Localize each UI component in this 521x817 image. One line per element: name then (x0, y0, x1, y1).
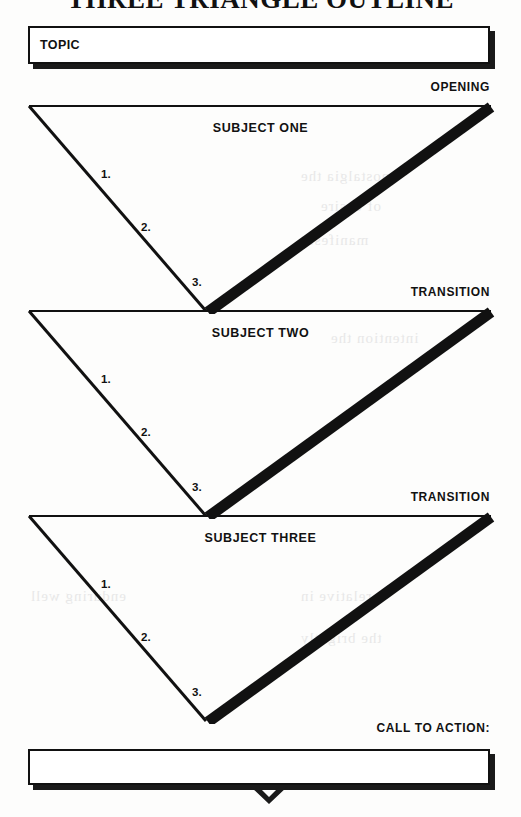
topic-box[interactable]: TOPIC (28, 26, 490, 64)
topic-box-label: TOPIC (40, 38, 80, 52)
page-title: THREE TRIANGLE OUTLINE (0, 0, 521, 15)
point-number-3: 3. (192, 481, 202, 493)
section-marker-call-to-action: CALL TO ACTION: (290, 721, 490, 735)
section-marker-transition-two: TRANSITION (300, 490, 490, 504)
point-number-2: 2. (141, 631, 151, 643)
point-number-1: 1. (101, 373, 111, 385)
triangle-section-three: SUBJECT THREE 1. 2. 3. (0, 512, 521, 724)
section-marker-transition-one: TRANSITION (300, 285, 490, 299)
point-number-1: 1. (101, 168, 111, 180)
point-number-3: 3. (192, 686, 202, 698)
subject-label-one: SUBJECT ONE (0, 121, 521, 135)
point-number-1: 1. (101, 578, 111, 590)
subject-label-two: SUBJECT TWO (0, 326, 521, 340)
down-chevron-icon (246, 784, 292, 808)
point-number-2: 2. (141, 426, 151, 438)
point-number-3: 3. (192, 276, 202, 288)
triangle-section-two: SUBJECT TWO 1. 2. 3. (0, 307, 521, 519)
section-marker-opening: OPENING (300, 80, 490, 94)
point-number-2: 2. (141, 221, 151, 233)
triangle-section-one: SUBJECT ONE 1. 2. 3. (0, 102, 521, 314)
call-to-action-box[interactable] (28, 749, 490, 785)
poster-page: nostalgia the of desire manifesto intent… (0, 0, 521, 817)
subject-label-three: SUBJECT THREE (0, 531, 521, 545)
